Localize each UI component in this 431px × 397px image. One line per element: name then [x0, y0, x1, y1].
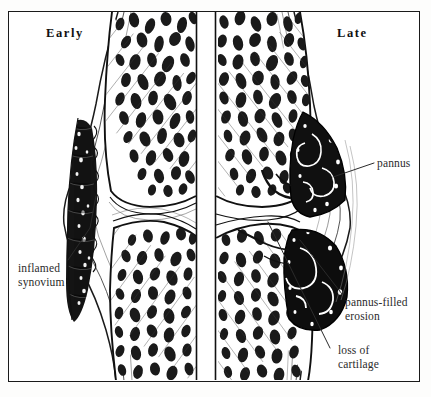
label-loss-of-cartilage-line1: loss of	[338, 343, 379, 357]
label-loss-of-cartilage-line2: cartilage	[338, 357, 379, 371]
label-pannus-filled-erosion: pannus-filled erosion	[345, 295, 408, 323]
label-pannus-filled-erosion-line1: pannus-filled	[345, 295, 408, 309]
panel-header-late: Late	[337, 26, 368, 41]
label-inflamed-synovium-line2: synovium	[18, 275, 65, 289]
label-pannus: pannus	[377, 157, 410, 171]
label-inflamed-synovium: inflamed synovium	[18, 261, 65, 289]
figure-illustration: Early Late pannus inflamed synovium pann…	[0, 0, 431, 397]
label-inflamed-synovium-line1: inflamed	[18, 261, 65, 275]
label-loss-of-cartilage: loss of cartilage	[338, 343, 379, 371]
label-pannus-filled-erosion-line2: erosion	[345, 309, 408, 323]
panel-header-early: Early	[46, 26, 84, 41]
joint-cross-section-artwork	[0, 0, 431, 397]
